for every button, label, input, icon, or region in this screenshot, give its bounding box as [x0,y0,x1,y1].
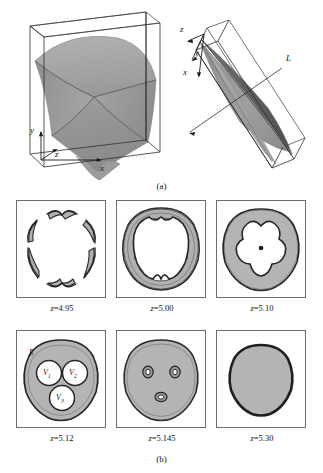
cs5-svg [117,331,205,427]
cross-section-label-3: z=5.10 [216,303,308,313]
cross-section-plot-z512: E V1 V2 V3 [16,330,106,428]
z-value-2: =5.00 [154,303,174,313]
panel-a-caption: (a) [0,181,323,191]
cross-section-label-6: z=5.30 [216,433,308,443]
cross-section-plot-z530 [216,330,306,428]
twisted-surface-sheets [200,40,292,164]
axis-label-x-right: x [183,68,187,77]
z-value-6: =5.30 [254,433,274,443]
cross-section-plot-z500 [116,200,206,298]
cross-section-cell-1: z=4.95 [16,200,108,313]
z-value-5: =5.145 [152,433,176,443]
shrinking-ring-3 [155,392,167,401]
axis-label-y-left: y [30,126,34,135]
crescent-arcs-group [29,211,95,286]
cross-section-plot-z495 [16,200,106,298]
line-L-arrow [189,132,195,136]
cross-section-cell-2: z=5.00 [116,200,208,313]
region-E-label: E [29,349,34,357]
cross-section-cell-4: E V1 V2 V3 z=5.12 [16,330,108,443]
cross-section-cell-5: z=5.145 [116,330,208,443]
cross-section-cell-6: z=5.30 [216,330,308,443]
axis-label-z-left: z [55,150,59,159]
panel-a: y z x [0,0,323,196]
cross-section-label-4: z=5.12 [16,433,108,443]
shrinking-ring-2 [170,366,180,378]
z-value-4: =5.12 [54,433,74,443]
cross-section-label-1: z=4.95 [16,303,108,313]
z-value-3: =5.10 [254,303,274,313]
axis-label-x-left: x [100,164,104,173]
cross-section-cell-3: z=5.10 [216,200,308,313]
saddle-surface-sheets [35,36,156,180]
cs3-svg [217,201,305,297]
solid-shield-region [230,345,293,416]
region-V3-label: V3 [56,394,64,404]
center-point [259,246,264,251]
cross-section-label-2: z=5.00 [116,303,208,313]
bounding-box-back-edges [30,12,160,37]
region-V1-label: V1 [43,369,51,379]
region-fill [124,340,198,421]
axis-label-z-right: z [180,25,184,34]
shrinking-ring-1 [143,366,153,378]
cs6-svg [217,331,305,427]
cs1-svg [17,201,105,297]
cross-section-plot-z510 [216,200,306,298]
cross-section-label-5: z=5.145 [116,433,208,443]
left-render-svg [8,4,176,180]
cross-section-plot-z5145 [116,330,206,428]
three-dimensional-surface-box-left: y z x [8,4,176,180]
cs4-svg [17,331,105,427]
line-L-label: L [286,54,291,63]
figure-root: y z x [0,0,323,473]
axis-label-y-right: y [195,49,199,58]
panel-b: z=4.95 [0,196,323,473]
cs2-svg [117,201,205,297]
panel-b-caption: (b) [0,454,323,464]
region-V2-label: V2 [69,369,77,379]
three-dimensional-surface-box-right: z y x L [172,6,323,180]
cross-section-grid: z=4.95 [16,200,308,448]
right-render-svg [172,6,323,180]
z-value-1: =4.95 [54,303,74,313]
